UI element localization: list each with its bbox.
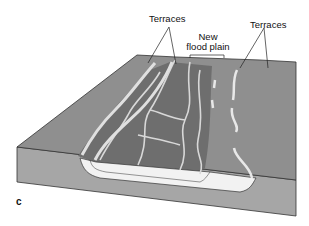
- panel-letter: c: [16, 196, 22, 207]
- block-diagram: [0, 0, 309, 226]
- label-terraces-right: Terraces: [250, 20, 286, 30]
- label-terraces-left: Terraces: [149, 14, 185, 24]
- label-new-flood-plain: New flood plain: [183, 32, 233, 52]
- label-flood-plain: flood plain: [186, 41, 229, 52]
